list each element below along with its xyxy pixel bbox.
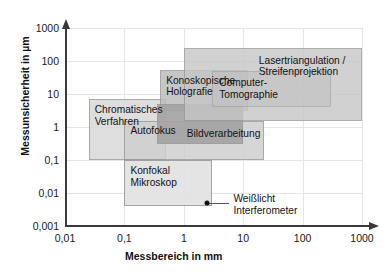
chart-figure: Messunsicherheit in µm Messbereich in mm…	[0, 0, 388, 274]
y-axis-tick-label: 100	[8, 56, 59, 67]
x-axis-tick-label: 100	[294, 233, 312, 244]
data-region-label-konfokal-mikroskop: Konfokal Mikroskop	[130, 165, 176, 188]
x-axis-arrow-icon	[369, 222, 379, 230]
x-axis-tick-label: 0,1	[117, 233, 132, 244]
y-axis-tick-label: 10	[8, 89, 59, 100]
gridline-vertical	[362, 28, 363, 226]
y-axis-tick-label: 0,001	[8, 221, 59, 232]
gridline-horizontal	[65, 160, 362, 161]
x-axis-tick-label: 1	[181, 233, 187, 244]
data-region-label-bildverarbeitung: Bildverarbeitung	[187, 128, 261, 140]
x-axis-tick-label: 10	[237, 233, 249, 244]
annotation-label-weisslicht-interferometer: Weißlicht Interferometer	[233, 193, 297, 216]
y-axis-tick-label: 0,01	[8, 188, 59, 199]
data-point-weisslicht-interferometer	[205, 200, 210, 205]
y-axis-line	[65, 28, 67, 226]
x-axis-tick-label: 1000	[350, 233, 373, 244]
y-axis-tick-label: 1000	[8, 23, 59, 34]
y-axis-tick-label: 1	[8, 122, 59, 133]
data-region-label-chromatisches-verfahren: Chromatisches Verfahren	[95, 104, 163, 127]
data-region-label-autofokus: Autofokus	[130, 125, 175, 137]
data-region-label-computer-tomographie: Computer- Tomographie	[219, 77, 278, 100]
data-region-label-lasertriangulation-streifenprojektion: Lasertriangulation / Streifenprojektion	[259, 55, 346, 78]
annotation-leader-line	[207, 203, 229, 204]
x-axis-title: Messbereich in mm	[125, 250, 222, 262]
gridline-horizontal	[65, 193, 362, 194]
x-axis-tick-label: 0,01	[55, 233, 75, 244]
y-axis-tick-label: 0,1	[8, 155, 59, 166]
y-axis-arrow-icon	[62, 19, 70, 29]
gridline-horizontal	[65, 28, 362, 29]
x-axis-line	[65, 225, 370, 227]
